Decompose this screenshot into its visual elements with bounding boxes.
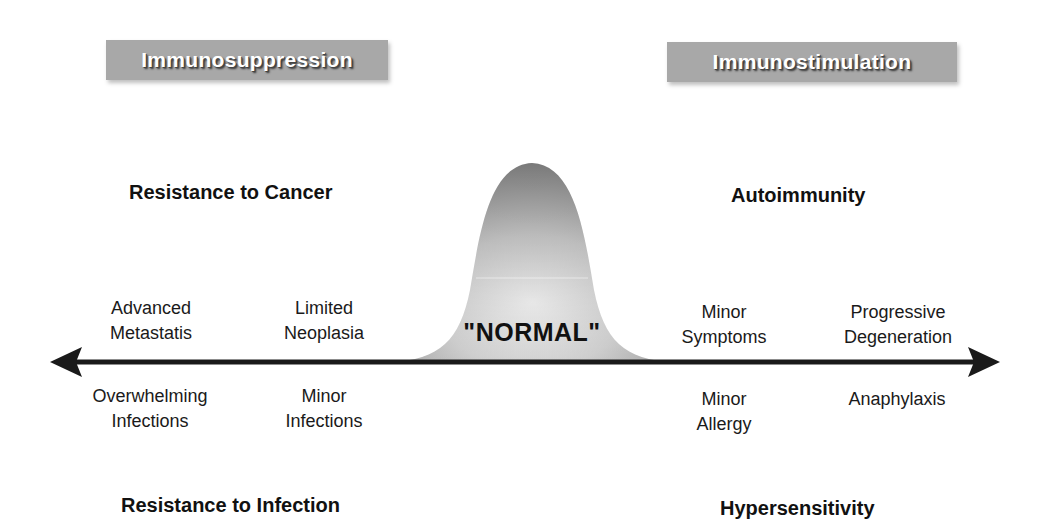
label-minor-infections: Minor Infections <box>285 384 362 434</box>
label-minor-symptoms: Minor Symptoms <box>681 300 766 350</box>
label-overwhelming-infections: Overwhelming Infections <box>92 384 207 434</box>
label-progressive-degeneration: Progressive Degeneration <box>844 300 952 350</box>
label-advanced-metastatis: Advanced Metastatis <box>110 296 192 346</box>
label-minor-allergy: Minor Allergy <box>696 387 751 437</box>
bell-curve-axis-diagram <box>0 0 1049 527</box>
normal-label: "NORMAL" <box>463 318 600 347</box>
label-limited-neoplasia: Limited Neoplasia <box>284 296 364 346</box>
label-anaphylaxis: Anaphylaxis <box>848 387 945 412</box>
